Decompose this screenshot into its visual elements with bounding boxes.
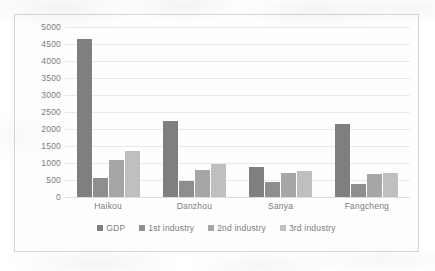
legend-swatch-icon xyxy=(139,225,145,231)
bar[interactable] xyxy=(335,124,350,197)
bar-group xyxy=(163,27,226,197)
y-axis-tick-label: 2000 xyxy=(41,124,61,134)
legend-swatch-icon xyxy=(280,225,286,231)
y-axis-tick-label: 2500 xyxy=(41,107,61,117)
y-axis-tick-label: 4000 xyxy=(41,56,61,66)
bar[interactable] xyxy=(281,173,296,197)
bar-series-layer xyxy=(65,27,410,197)
legend-item[interactable]: 1st industry xyxy=(139,223,194,233)
bar[interactable] xyxy=(249,167,264,197)
y-axis-tick-label: 5000 xyxy=(41,22,61,32)
y-axis-tick-label: 1500 xyxy=(41,141,61,151)
legend-label: 1st industry xyxy=(148,223,194,233)
bar[interactable] xyxy=(163,121,178,197)
bar[interactable] xyxy=(265,182,280,197)
legend-label: GDP xyxy=(106,223,125,233)
bar[interactable] xyxy=(77,39,92,197)
x-axis-tick-label: Fangcheng xyxy=(332,201,402,211)
y-axis-tick-label: 1000 xyxy=(41,158,61,168)
legend-item[interactable]: 3rd industry xyxy=(280,223,336,233)
y-axis-tick-label: 0 xyxy=(56,192,61,202)
bar-group xyxy=(249,27,312,197)
bar[interactable] xyxy=(211,164,226,197)
chart-plot-wrapper: 5000450040003500300025002000150010005000… xyxy=(15,15,418,251)
bar-group xyxy=(335,27,398,197)
legend-swatch-icon xyxy=(208,225,214,231)
bar[interactable] xyxy=(367,174,382,197)
y-axis-tick-label: 3500 xyxy=(41,73,61,83)
x-axis: HaikouDanzhouSanyaFangcheng xyxy=(65,201,410,217)
plot-area xyxy=(65,27,410,197)
x-axis-tick-label: Danzhou xyxy=(159,201,229,211)
chart-legend: GDP1st industry2nd industry3rd industry xyxy=(15,223,418,233)
bar[interactable] xyxy=(179,181,194,197)
bar[interactable] xyxy=(93,178,108,197)
bar[interactable] xyxy=(351,184,366,197)
x-axis-tick-label: Sanya xyxy=(246,201,316,211)
chart-container: 5000450040003500300025002000150010005000… xyxy=(14,14,419,252)
bar-group xyxy=(77,27,140,197)
legend-swatch-icon xyxy=(97,225,103,231)
y-axis-tick-label: 3000 xyxy=(41,90,61,100)
bar[interactable] xyxy=(297,171,312,197)
y-axis-tick-label: 4500 xyxy=(41,39,61,49)
legend-item[interactable]: 2nd industry xyxy=(208,223,266,233)
y-axis: 5000450040003500300025002000150010005000 xyxy=(21,27,61,197)
x-axis-tick-label: Haikou xyxy=(73,201,143,211)
bar[interactable] xyxy=(195,170,210,197)
legend-item[interactable]: GDP xyxy=(97,223,125,233)
legend-label: 3rd industry xyxy=(289,223,336,233)
bar[interactable] xyxy=(383,173,398,197)
bar[interactable] xyxy=(125,151,140,197)
legend-label: 2nd industry xyxy=(217,223,266,233)
y-axis-tick-label: 500 xyxy=(46,175,61,185)
bar[interactable] xyxy=(109,160,124,197)
axis-baseline xyxy=(65,197,410,198)
